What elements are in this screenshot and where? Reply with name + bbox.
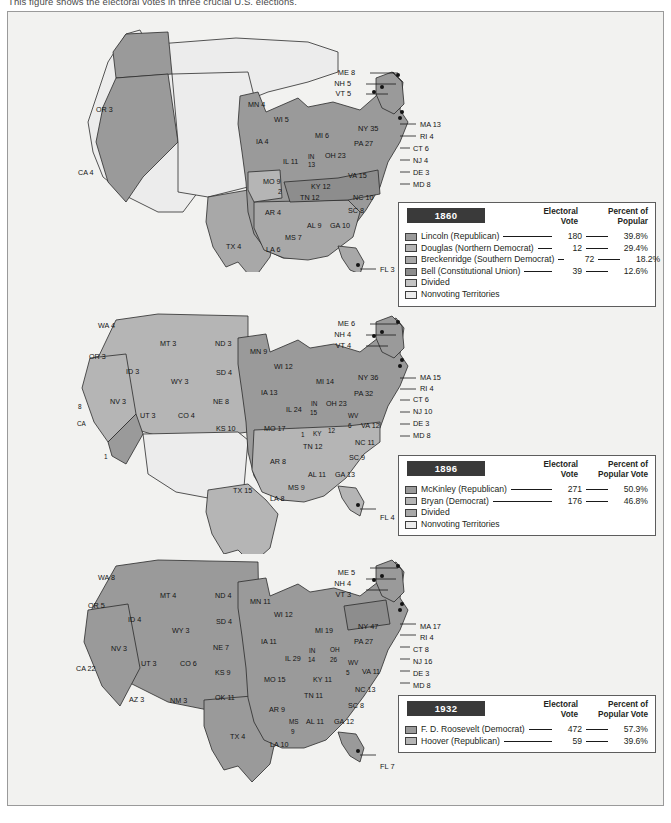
state-label: LA 10 (270, 740, 288, 749)
state-label: MI 19 (315, 626, 333, 635)
legend-swatch (405, 509, 417, 517)
legend-column-headers: ElectoralPercent ofVotePopular (528, 207, 648, 226)
state-label: 2 (278, 188, 282, 195)
state-label: TN 12 (303, 442, 323, 451)
callout-label: MD 8 (413, 180, 431, 189)
state-label: WI 5 (274, 115, 289, 124)
callout-label: MD 8 (413, 431, 431, 440)
state-label: SC 8 (348, 701, 364, 710)
legend-swatch (405, 291, 417, 299)
state-label: MN 11 (250, 597, 271, 606)
legend-header: 1896ElectoralPercent ofVotePopular Vote (405, 460, 648, 484)
state-label: AL 9 (307, 221, 322, 230)
legend-electoral-vote: 59 (556, 736, 582, 747)
state-label: MI 6 (315, 131, 329, 140)
state-label: 9 (291, 728, 295, 735)
callout-label: CT 8 (413, 645, 429, 654)
state-label: ID 3 (126, 367, 139, 376)
state-label: GA 13 (335, 470, 355, 479)
legend-candidate-name: Douglas (Northern Democrat) (421, 243, 534, 254)
legend-leader-line-2 (586, 486, 608, 490)
callout-label: DE 3 (413, 669, 429, 678)
callout-label: VT 4 (336, 341, 351, 350)
legend-col2-head: Percent of (578, 460, 648, 470)
callout-label: FL 4 (380, 513, 395, 522)
callout-label: MA 17 (420, 622, 441, 631)
state-label: KS 10 (216, 424, 236, 433)
state-label: 5 (346, 669, 350, 676)
legend-popular-percent: 12.6% (612, 266, 648, 277)
legend-swatch (405, 244, 417, 252)
legend-leader-line (504, 738, 552, 742)
state-or (113, 32, 172, 78)
state-label: VA 11 (362, 667, 380, 676)
legend-leader-line-2 (586, 498, 608, 502)
callout-label: VT 3 (336, 590, 351, 599)
state-label: MN 4 (248, 100, 265, 109)
state-label: IA 11 (261, 637, 277, 646)
legend-swatch (405, 486, 417, 494)
legend-row: Divided (405, 277, 648, 289)
legend-electoral-vote: 472 (556, 724, 582, 735)
state-label: IL 24 (286, 405, 302, 414)
state-label: LA 6 (266, 245, 280, 254)
state-label: SC 8 (348, 206, 364, 215)
state-label: ND 3 (215, 339, 231, 348)
state-label: 14 (308, 656, 316, 663)
legend-swatch (405, 268, 417, 276)
legend-swatch (405, 279, 417, 287)
state-label: AR 8 (270, 457, 286, 466)
state-label: WV (348, 412, 359, 419)
state-label: UT 3 (140, 411, 155, 420)
legend-swatch (405, 726, 417, 734)
legend-leader-line (493, 498, 552, 502)
state-label: NC 10 (353, 193, 373, 202)
legend-swatch (405, 497, 417, 505)
state-label: NC 11 (355, 438, 375, 447)
callout-label: PA 32 (354, 389, 373, 398)
legend-column-headers: ElectoralPercent ofVotePopular Vote (528, 700, 648, 719)
legend-row: Hoover (Republican)5939.6% (405, 736, 648, 748)
legend-1860: 1860ElectoralPercent ofVotePopularLincol… (398, 202, 656, 307)
legend-candidate-name: F. D. Roosevelt (Democrat) (421, 724, 525, 735)
legend-electoral-vote: 72 (568, 254, 594, 265)
state-label: OR 3 (96, 105, 113, 114)
state-label: CO 4 (178, 411, 195, 420)
state-label: OR 5 (88, 601, 105, 610)
legend-leader-line-2 (586, 726, 608, 730)
state-label: LA 8 (270, 494, 284, 503)
legend-leader-line (538, 245, 552, 249)
legend-electoral-vote: 12 (556, 243, 582, 254)
callout-label: DE 3 (413, 168, 429, 177)
state-mo (248, 170, 282, 202)
legend-leader-line (558, 256, 564, 260)
state-label: TN 12 (300, 193, 320, 202)
state-label: NE 8 (213, 397, 229, 406)
callout-label: NJ 16 (413, 657, 432, 666)
legend-popular-percent: 29.4% (612, 243, 648, 254)
legend-col2-head: Percent of (578, 700, 648, 710)
legend-candidate-name: Nonvoting Territories (421, 519, 500, 530)
map-1932-svg: WA 8OR 5ID 4MT 4ND 4SD 4WY 3NV 3UT 3CO 6… (8, 550, 665, 800)
legend-col1-head: Electoral (528, 700, 578, 710)
state-label: 15 (310, 409, 318, 416)
callout-label: NY 36 (358, 373, 378, 382)
state-label: WV (348, 659, 359, 666)
legend-electoral-vote: 39 (556, 266, 582, 277)
callout-label: RI 4 (420, 633, 434, 642)
callout-label: NY 35 (358, 124, 378, 133)
state-label: MI 14 (316, 377, 334, 386)
legend-col1-sub: Vote (528, 710, 578, 720)
state-label: CA (77, 420, 87, 427)
legend-row: Bryan (Democrat)17646.8% (405, 496, 648, 508)
legend-year-tag: 1860 (407, 208, 485, 223)
state-label: KY (313, 430, 322, 437)
state-label: OH 23 (326, 399, 347, 408)
legend-leader-line-2 (586, 738, 608, 742)
state-label: NM 3 (170, 696, 187, 705)
callout-label: FL 7 (380, 762, 395, 771)
state-label: VA 12 (361, 421, 380, 430)
legend-row: McKinley (Republican)27150.9% (405, 484, 648, 496)
state-label: KY 11 (313, 675, 332, 684)
legend-row: Douglas (Northern Democrat)1229.4% (405, 243, 648, 255)
